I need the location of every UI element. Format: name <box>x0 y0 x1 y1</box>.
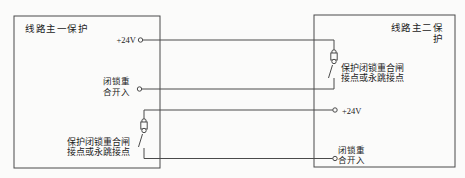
main1-reclose-input-label: 闭锁重 合开入 <box>102 76 130 97</box>
main1-reclose-input-terminal <box>137 87 141 91</box>
main1-protection-title: 线路主一保护 <box>25 24 88 35</box>
main2-24v-label: +24V <box>342 106 361 117</box>
main2-reclose-input-label: 闭锁重 合开入 <box>338 145 365 166</box>
main2-reclose-input-terminal <box>333 156 337 160</box>
main2-blocking-contact-label: 保护闭锁重合闸 接点或永跳接点 <box>341 63 413 83</box>
wire-main1-24v-to-main2-contact <box>143 40 334 50</box>
main1-24v-terminal <box>138 38 142 42</box>
main2-protection-title: 线路主二保护 <box>385 23 443 45</box>
wiring-diagram: 线路主一保护 线路主二保护 +24V 闭锁重 合开入 保护闭锁重合闸 接点或永跳… <box>0 0 465 178</box>
main1-blocking-contact-symbol <box>139 119 148 159</box>
wire-main2-24v-to-main1-contact <box>144 110 333 119</box>
main1-blocking-contact-label: 保护闭锁重合闸 接点或永跳接点 <box>60 137 136 157</box>
main2-24v-terminal <box>333 108 337 112</box>
main2-blocking-contact-symbol <box>329 50 338 89</box>
main1-24v-label: +24V <box>108 35 136 46</box>
